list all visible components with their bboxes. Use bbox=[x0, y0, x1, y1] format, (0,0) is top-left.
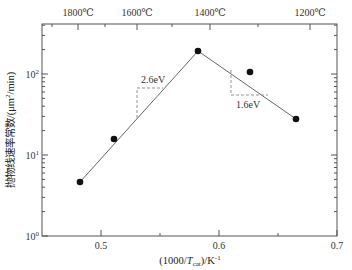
x-axis-title: (1000/Tcat)/K-1 bbox=[159, 254, 221, 268]
y-axis bbox=[42, 25, 48, 236]
y-tick-label: 102 bbox=[26, 68, 40, 80]
fit-lines bbox=[80, 51, 296, 182]
x-tick-label: 0.6 bbox=[213, 240, 226, 251]
y-tick-labels: 100 101 102 bbox=[26, 68, 40, 242]
chart: 1800℃ 1600℃ 1400℃ 1200℃ 0.5 0.6 0.7 (100… bbox=[0, 0, 352, 270]
data-point bbox=[195, 48, 202, 55]
slope-triangle-2.6eV bbox=[137, 88, 163, 118]
data-point bbox=[77, 179, 84, 186]
annotation-2.6eV: 2.6eV bbox=[141, 74, 166, 85]
top-tick-label: 1400℃ bbox=[194, 7, 225, 18]
x-tick-label: 0.7 bbox=[331, 240, 344, 251]
y-axis-title: 抛物线速率常数/(μm2/min) bbox=[4, 71, 17, 188]
annotation-1.6eV: 1.6eV bbox=[236, 99, 261, 110]
data-point bbox=[111, 136, 118, 143]
plot-frame bbox=[42, 24, 337, 236]
y-tick-label: 101 bbox=[26, 149, 40, 161]
top-tick-label: 1600℃ bbox=[121, 7, 152, 18]
y-axis-right bbox=[331, 25, 337, 211]
top-tick-label: 1200℃ bbox=[294, 7, 325, 18]
data-point bbox=[247, 69, 254, 76]
top-axis: 1800℃ 1600℃ 1400℃ 1200℃ bbox=[52, 7, 326, 30]
data-points bbox=[77, 48, 300, 186]
x-tick-label: 0.5 bbox=[95, 240, 108, 251]
data-point bbox=[293, 116, 300, 123]
y-tick-label: 100 bbox=[26, 230, 40, 242]
top-tick-label: 1800℃ bbox=[62, 7, 93, 18]
fit-line-low-temp bbox=[80, 51, 198, 182]
